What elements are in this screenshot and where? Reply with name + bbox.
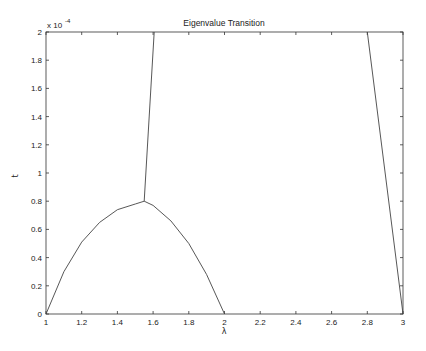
- x-tick-label: 2.6: [326, 318, 338, 327]
- x-tick-label: 1.2: [76, 318, 88, 327]
- x-tick-label: 1.6: [148, 318, 160, 327]
- y-tick-label: 1.8: [31, 56, 43, 65]
- x-tick-label: 3: [401, 318, 406, 327]
- y-tick-label: 0.2: [31, 282, 43, 291]
- y-tick-label: 1.2: [31, 141, 43, 150]
- y-tick-label: 0: [38, 310, 43, 319]
- y-tick-label: 0.8: [31, 197, 43, 206]
- x-tick-label: 2.2: [255, 318, 267, 327]
- chart-figure: 11.21.41.61.822.22.42.62.83 00.20.40.60.…: [0, 0, 426, 351]
- y-exponent-power: -4: [65, 18, 71, 24]
- x-tick-label: 2: [222, 318, 227, 327]
- y-tick-label: 2: [38, 28, 43, 37]
- axes-box: [46, 32, 403, 314]
- x-tick-label: 1.8: [183, 318, 195, 327]
- y-exponent: x 10 -4: [47, 18, 71, 30]
- y-exponent-base: x 10: [47, 21, 63, 30]
- x-axis-label: λ: [222, 327, 227, 336]
- x-tick-label: 2.4: [290, 318, 302, 327]
- x-tick-label: 1: [44, 318, 49, 327]
- y-tick-label: 1.4: [31, 113, 43, 122]
- y-tick-label: 1: [38, 169, 43, 178]
- chart-title: Eigenvalue Transition: [183, 18, 265, 28]
- y-tick-label: 0.6: [31, 225, 43, 234]
- y-tick-label: 0.4: [31, 254, 43, 263]
- y-tick-label: 1.6: [31, 84, 43, 93]
- x-tick-label: 1.4: [112, 318, 124, 327]
- y-axis-label: t: [11, 174, 20, 177]
- x-tick-label: 2.8: [362, 318, 374, 327]
